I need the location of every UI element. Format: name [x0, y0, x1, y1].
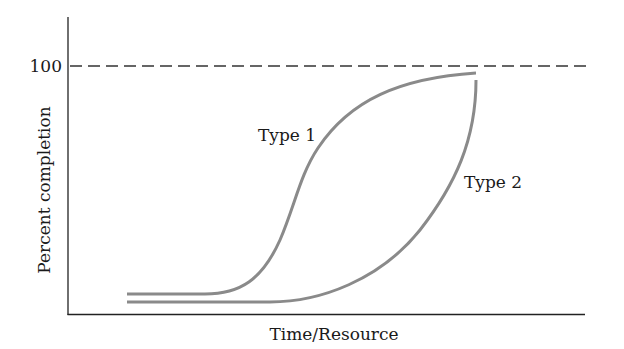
s-curve-chart: 100 Percent completion Time/Resource Typ…: [0, 0, 624, 349]
x-axis-label: Time/Resource: [269, 324, 398, 344]
y-axis-label: Percent completion: [34, 106, 54, 273]
y-tick-100: 100: [30, 56, 62, 76]
type2-curve: [127, 80, 476, 302]
type2-label: Type 2: [464, 172, 522, 192]
type1-label: Type 1: [258, 125, 316, 145]
type1-curve: [127, 73, 476, 294]
